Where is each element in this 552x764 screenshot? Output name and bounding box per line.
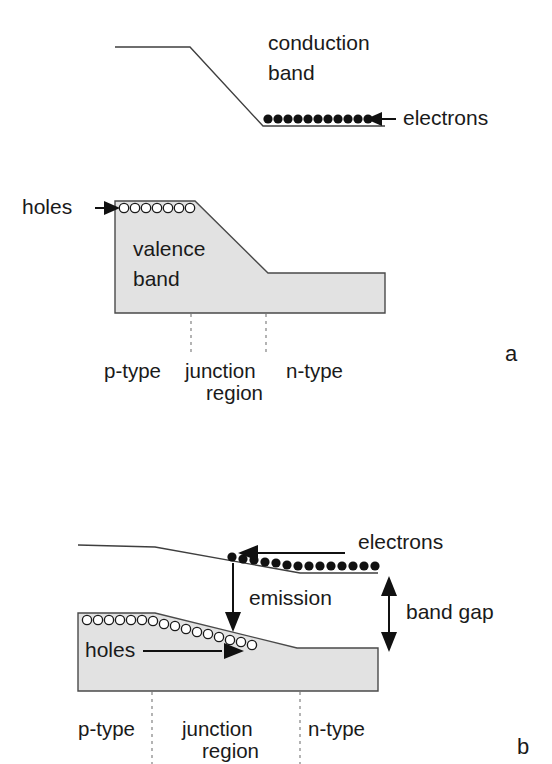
conduction-band-label-line1-a: conduction bbox=[268, 32, 370, 55]
holes-label-a: holes bbox=[22, 196, 72, 219]
junction-label-a: junction bbox=[185, 360, 256, 382]
holes-label-b: holes bbox=[85, 639, 135, 662]
band-gap-label-b: band gap bbox=[406, 601, 494, 624]
panel-a bbox=[95, 47, 396, 356]
electrons-label-a: electrons bbox=[403, 107, 488, 130]
n-type-label-a: n-type bbox=[286, 360, 343, 382]
band-gap-arrow-b bbox=[381, 576, 397, 652]
panel-letter-b: b bbox=[517, 735, 529, 759]
emission-arrow-b bbox=[225, 563, 241, 632]
junction-label-b: junction bbox=[182, 718, 253, 740]
semiconductor-band-diagram-figure: conduction band electrons holes valence … bbox=[0, 0, 552, 764]
electrons-label-b: electrons bbox=[358, 531, 443, 554]
region-label-a: region bbox=[206, 382, 263, 404]
valence-band-label-line2-a: band bbox=[133, 268, 180, 291]
electrons-arrow-b bbox=[238, 545, 345, 561]
electrons-arrow-a bbox=[366, 112, 396, 126]
panel-letter-a: a bbox=[505, 342, 517, 366]
emission-label-b: emission bbox=[249, 587, 332, 610]
electron-dots-a bbox=[263, 114, 372, 123]
p-type-label-a: p-type bbox=[104, 360, 161, 382]
conduction-band-label-line2-a: band bbox=[268, 62, 315, 85]
n-type-label-b: n-type bbox=[308, 718, 365, 740]
valence-band-label-line1-a: valence bbox=[133, 238, 205, 261]
conduction-band-edge-a bbox=[115, 47, 385, 126]
p-type-label-b: p-type bbox=[78, 718, 135, 740]
region-label-b: region bbox=[202, 740, 259, 762]
